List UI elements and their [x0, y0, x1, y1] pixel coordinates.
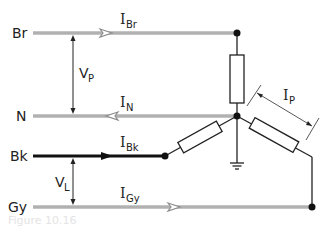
voltage-label-vl: V L — [55, 174, 70, 193]
label-n: N — [16, 108, 26, 124]
resistor-gy — [237, 116, 312, 207]
current-label-ip: I P — [283, 87, 295, 106]
svg-text:I: I — [120, 94, 126, 110]
vp-arrow — [71, 35, 76, 114]
svg-text:I: I — [120, 134, 126, 150]
node-star — [234, 113, 241, 120]
bk-line — [33, 152, 165, 160]
resistor-br — [230, 33, 244, 116]
neutral-line — [33, 112, 237, 120]
svg-text:Br: Br — [126, 19, 138, 30]
current-label-n: I N — [120, 94, 133, 113]
node-bk — [162, 153, 169, 160]
current-label-bk: I Bk — [120, 134, 139, 153]
svg-text:Bk: Bk — [126, 142, 139, 153]
voltage-label-vp: V P — [79, 65, 94, 84]
current-label-gy: I Gy — [120, 185, 140, 204]
label-bk: Bk — [10, 148, 29, 164]
br-line — [33, 29, 237, 37]
gy-line — [33, 203, 312, 211]
svg-text:I: I — [120, 11, 126, 27]
svg-text:P: P — [88, 73, 94, 84]
svg-text:L: L — [64, 182, 70, 193]
figure-caption: Figure 10.16 — [8, 214, 77, 226]
svg-text:N: N — [126, 102, 133, 113]
resistor-bk — [165, 116, 237, 156]
current-label-br: I Br — [120, 11, 138, 30]
node-br — [234, 30, 241, 37]
label-br: Br — [12, 25, 28, 41]
current-arrow-bk — [101, 152, 113, 160]
svg-text:P: P — [289, 95, 295, 106]
circuit-diagram: Br N Bk Gy I Br I N I Bk I Gy I P V P V … — [0, 0, 331, 226]
svg-text:I: I — [283, 87, 289, 103]
node-gy — [309, 204, 316, 211]
label-gy: Gy — [8, 199, 27, 215]
svg-text:Gy: Gy — [126, 193, 140, 204]
svg-text:I: I — [120, 185, 126, 201]
vl-arrow — [71, 158, 76, 205]
ground-icon — [230, 116, 244, 169]
